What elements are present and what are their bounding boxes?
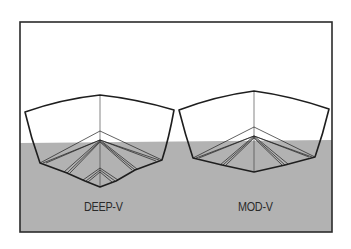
hull-comparison-diagram: [0, 0, 351, 249]
mod-v-label: MOD-V: [238, 200, 273, 214]
deep-v-label: DEEP-V: [84, 200, 123, 214]
